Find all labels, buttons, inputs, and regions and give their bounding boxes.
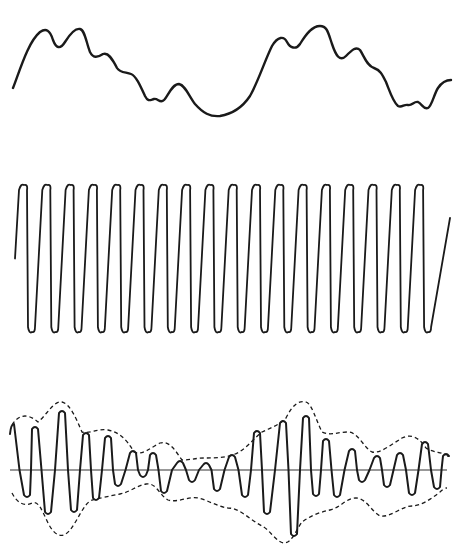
modulated-wave-panel <box>10 402 449 543</box>
modulated-wave-curve <box>10 411 449 536</box>
carrier-wave-panel <box>15 185 450 333</box>
carrier-wave-curve <box>15 185 450 333</box>
modulating-signal-curve <box>13 26 451 116</box>
upper-envelope-dashed <box>12 402 447 460</box>
amplitude-modulation-diagram <box>0 0 462 547</box>
lower-envelope-dashed <box>12 484 447 543</box>
modulating-signal-panel <box>13 26 451 116</box>
